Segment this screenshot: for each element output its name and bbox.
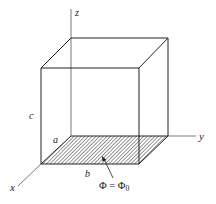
x-axis — [18, 164, 41, 186]
rectangular-box-diagram: z y x c a b Φ = Φ0 — [0, 0, 216, 204]
y-axis-label: y — [198, 130, 204, 142]
subscript-zero: 0 — [126, 184, 130, 193]
boundary-condition-label: Φ = Φ0 — [99, 180, 130, 193]
z-axis-label: z — [74, 7, 79, 18]
top-left-edge — [41, 38, 71, 68]
dimension-c-label: c — [29, 110, 34, 121]
dimension-b-label: b — [85, 168, 90, 179]
x-axis-label: x — [9, 181, 15, 193]
dimension-a-label: a — [53, 134, 58, 145]
top-right-edge — [139, 38, 168, 68]
